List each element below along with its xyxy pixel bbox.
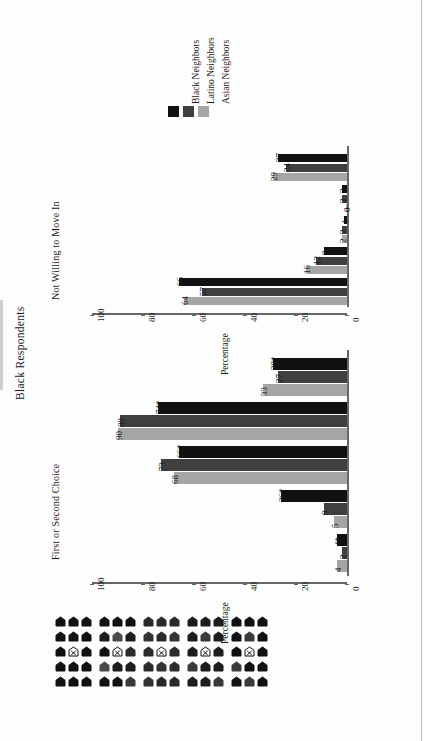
- house-icon: [55, 616, 66, 627]
- axis-tick-label: 20: [300, 582, 310, 591]
- house-marker-icon: [244, 646, 255, 657]
- axis-tick-label: 40: [249, 313, 259, 322]
- bar: [286, 164, 347, 172]
- legend-swatch-latino-neighbors: [183, 106, 194, 117]
- legend-label-black-neighbors: Black Neighbors: [191, 40, 201, 104]
- axis-tick: [192, 315, 196, 316]
- bar-value-label: 2: [338, 198, 348, 203]
- house-icon: [257, 676, 268, 687]
- axis-tick: [141, 315, 145, 316]
- bar: [158, 402, 347, 414]
- house-icon: [187, 661, 198, 672]
- house-icon: [231, 676, 242, 687]
- axis-tick: [90, 584, 94, 585]
- bar-value-label: 57: [198, 287, 208, 296]
- legend-label-latino-neighbors: Latino Neighbors: [206, 37, 216, 104]
- house-icon: [257, 661, 268, 672]
- house-icon: [156, 661, 167, 672]
- house-icon: [231, 631, 242, 642]
- bar-value-label: 9: [320, 251, 330, 256]
- house-icon: [231, 646, 242, 657]
- house-icon: [213, 646, 224, 657]
- bar-value-label: 2: [338, 239, 348, 244]
- house-icon: [200, 676, 211, 687]
- figure-root: Black Respondents Black Neighbors Latino…: [0, 0, 424, 741]
- house-icon: [125, 616, 136, 627]
- house-icon: [68, 661, 79, 672]
- bar: [273, 358, 347, 370]
- house-marker-icon: [68, 646, 79, 657]
- page-title: Black Respondents: [14, 306, 26, 400]
- house-icon: [200, 631, 211, 642]
- value-axis-baseline: [347, 350, 349, 576]
- house-icon: [169, 616, 180, 627]
- bar-value-label: 12: [312, 256, 322, 265]
- bar: [174, 472, 347, 484]
- house-icon: [169, 646, 180, 657]
- house-icon: [99, 616, 110, 627]
- bar-value-label: 74*: [154, 400, 164, 414]
- house-icon: [81, 616, 92, 627]
- bar-value-label: 66: [175, 277, 185, 286]
- legend: Black Neighbors Latino Neighbors Asian N…: [168, 14, 216, 134]
- house-icon: [112, 676, 123, 687]
- house-icon: [112, 661, 123, 672]
- bar-value-label: 4*: [333, 537, 343, 546]
- bar-value-label: 2: [338, 229, 348, 234]
- bar-value-label: 24: [282, 163, 292, 172]
- house-icon: [213, 676, 224, 687]
- house-icon: [231, 616, 242, 627]
- house-icon: [143, 616, 154, 627]
- house-icon: [55, 631, 66, 642]
- bar-value-label: 2: [338, 554, 348, 559]
- pictogram-strip: [55, 616, 355, 736]
- axis-tick-label: 40: [249, 582, 259, 591]
- bar-value-label: 5: [330, 523, 340, 528]
- bar-value-label: 2: [338, 189, 348, 194]
- bar: [263, 384, 347, 396]
- axis-tick-label: 100: [96, 578, 106, 592]
- bar-value-label: 27: [274, 374, 284, 383]
- axis-tick: [90, 315, 94, 316]
- panel-title-first-or-second-choice: First or Second Choice: [50, 464, 61, 560]
- bar: [278, 154, 347, 162]
- axis-tick: [141, 584, 145, 585]
- axis-tick-label: 60: [198, 582, 208, 591]
- bar: [161, 459, 347, 471]
- bar: [179, 278, 347, 286]
- pictogram-group: [143, 616, 182, 691]
- bar-value-label: 33: [259, 387, 269, 396]
- house-icon: [257, 631, 268, 642]
- axis-tick: [243, 315, 247, 316]
- bar: [202, 288, 347, 296]
- house-icon: [257, 616, 268, 627]
- house-icon: [156, 676, 167, 687]
- axis-tick: [294, 315, 298, 316]
- axis-tick-label: 0: [351, 587, 361, 592]
- bar-value-label: 68: [170, 475, 180, 484]
- house-icon: [244, 631, 255, 642]
- page-margin-mark: [0, 300, 3, 390]
- house-icon: [81, 676, 92, 687]
- house-icon: [99, 631, 110, 642]
- bar-value-label: 73: [157, 462, 167, 471]
- bar-value-label: 26*: [277, 488, 287, 502]
- legend-swatch-asian-neighbors: [198, 106, 209, 117]
- house-icon: [99, 661, 110, 672]
- panel-first-or-second-choice: 020406080100Percentage29*273374*899066*7…: [55, 340, 355, 615]
- legend-label-asian-neighbors: Asian Neighbors: [221, 40, 231, 104]
- bar-value-label: 89: [116, 418, 126, 427]
- bar-value-label: 29: [269, 172, 279, 181]
- axis-tick: [345, 584, 349, 585]
- pictogram-group: [55, 616, 94, 691]
- house-icon: [81, 631, 92, 642]
- house-icon: [187, 631, 198, 642]
- axis-tick-label: 20: [300, 313, 310, 322]
- house-marker-icon: [156, 646, 167, 657]
- house-icon: [55, 646, 66, 657]
- house-icon: [125, 631, 136, 642]
- house-icon: [125, 676, 136, 687]
- house-icon: [169, 661, 180, 672]
- house-icon: [81, 661, 92, 672]
- house-icon: [68, 631, 79, 642]
